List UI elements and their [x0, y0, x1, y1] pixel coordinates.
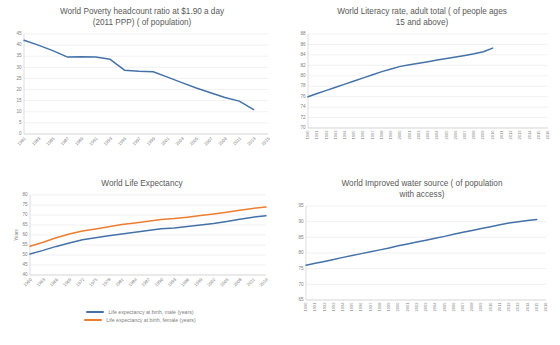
- x-axis-tick: 1999: [146, 136, 157, 147]
- x-axis-tick: 2009: [217, 136, 228, 147]
- y-axis-tick: 30: [16, 65, 22, 70]
- x-axis-tick: 2010: [490, 130, 495, 140]
- x-axis-tick: 1998: [379, 130, 384, 140]
- x-axis-tick: 2005: [444, 130, 449, 140]
- x-axis-tick: 1972: [75, 277, 86, 288]
- series-line: [24, 40, 254, 109]
- x-axis-tick: 2001: [407, 130, 412, 140]
- x-axis-tick: 2014: [525, 302, 530, 312]
- x-axis-tick: 1987: [141, 277, 152, 288]
- x-axis-tick: 1989: [74, 136, 85, 147]
- y-axis-tick: 80: [298, 250, 304, 255]
- x-axis-tick: 2011: [232, 136, 243, 147]
- chart-title-line2: 15 and above): [294, 17, 550, 28]
- chart-panel-water-source: World Improved water source ( of populat…: [280, 172, 560, 345]
- y-axis-tick: 25: [16, 76, 22, 81]
- y-axis-tick: 65: [298, 297, 304, 302]
- y-axis-tick: 10: [16, 109, 22, 114]
- y-axis-tick: 65: [22, 222, 28, 227]
- chart-svg-life-expectancy: 807570656055504540Years19601963196619691…: [0, 189, 280, 307]
- x-axis-tick: 1993: [333, 130, 338, 140]
- y-axis-label: Years: [14, 229, 19, 241]
- chart-svg-poverty: 4540353025201510501981198319851987198919…: [0, 28, 280, 168]
- x-axis-tick: 1996: [358, 302, 363, 312]
- x-axis-tick: 1991: [314, 130, 319, 140]
- x-axis-tick: 1963: [36, 277, 47, 288]
- x-axis-tick: 1981: [17, 136, 28, 147]
- x-axis-tick: 2003: [423, 302, 428, 312]
- x-axis-tick: 1992: [322, 302, 327, 312]
- chart-title-life-expectancy: World Life Expectancy: [0, 172, 280, 189]
- y-axis-tick: 45: [16, 31, 22, 36]
- x-axis-tick: 2013: [517, 130, 522, 140]
- y-axis-tick: 88: [300, 31, 306, 36]
- x-axis-tick: 2006: [453, 130, 458, 140]
- x-axis-tick: 2006: [451, 302, 456, 312]
- legend-item-female: Life expectancy at birth, female (years): [84, 317, 195, 323]
- x-axis-tick: 2008: [469, 302, 474, 312]
- legend-swatch-female: [84, 319, 102, 321]
- chart-title-water-source: World Improved water source ( of populat…: [280, 172, 560, 200]
- series-line: [308, 48, 493, 97]
- y-axis-tick: 95: [298, 203, 304, 208]
- x-axis-tick: 2015: [261, 136, 272, 147]
- y-axis-tick: 40: [22, 272, 28, 277]
- x-axis-tick: 1999: [193, 277, 204, 288]
- y-axis-tick: 70: [298, 282, 304, 287]
- x-axis-tick: 2002: [416, 130, 421, 140]
- x-axis-tick: 1994: [342, 130, 347, 140]
- x-axis-tick: 2007: [462, 130, 467, 140]
- x-axis-tick: 1998: [377, 302, 382, 312]
- x-axis-tick: 2010: [488, 302, 493, 312]
- y-axis-tick: 76: [300, 94, 306, 99]
- x-axis-tick: 1991: [312, 302, 317, 312]
- x-axis-tick: 2009: [480, 130, 485, 140]
- plot-area-literacy: 8886848280787674727019901991199219931994…: [280, 28, 560, 168]
- plot-area-poverty: 4540353025201510501981198319851987198919…: [0, 28, 280, 168]
- x-axis-tick: 2004: [432, 302, 437, 312]
- x-axis-tick: 2003: [425, 130, 430, 140]
- chart-panel-life-expectancy: World Life Expectancy 807570656055504540…: [0, 172, 280, 345]
- x-axis-tick: 1995: [117, 136, 128, 147]
- x-axis-tick: 2008: [232, 277, 243, 288]
- x-axis-tick: 2007: [203, 136, 214, 147]
- y-axis-tick: 20: [16, 87, 22, 92]
- y-axis-tick: 80: [22, 192, 28, 197]
- chart-title-line1: World Improved water source ( of populat…: [294, 178, 550, 189]
- y-axis-tick: 82: [300, 63, 306, 68]
- y-axis-tick: 60: [22, 232, 28, 237]
- x-axis-tick: 1997: [368, 302, 373, 312]
- x-axis-tick: 2012: [508, 130, 513, 140]
- chart-legend-life-expectancy: Life expectancy at birth, male (years) L…: [0, 309, 280, 323]
- charts-dashboard: World Poverty headcount ratio at $1.90 a…: [0, 0, 560, 345]
- x-axis-tick: 1994: [340, 302, 345, 312]
- chart-title-poverty: World Poverty headcount ratio at $1.90 a…: [0, 0, 280, 28]
- x-axis-tick: 2013: [246, 136, 257, 147]
- chart-svg-literacy: 8886848280787674727019901991199219931994…: [280, 28, 560, 168]
- chart-title-line1: World Life Expectancy: [14, 178, 270, 189]
- x-axis-tick: 2002: [206, 277, 217, 288]
- chart-title-line1: World Literacy rate, adult total ( of pe…: [294, 6, 550, 17]
- x-axis-tick: 2004: [434, 130, 439, 140]
- x-axis-tick: 2000: [395, 302, 400, 312]
- y-axis-tick: 45: [22, 262, 28, 267]
- x-axis-tick: 1984: [127, 277, 138, 288]
- x-axis-tick: 1993: [167, 277, 178, 288]
- x-axis-tick: 1966: [49, 277, 60, 288]
- y-axis-tick: 75: [22, 202, 28, 207]
- legend-swatch-male: [86, 311, 104, 313]
- series-line: [30, 207, 266, 246]
- y-axis-tick: 35: [16, 53, 22, 58]
- chart-title-literacy: World Literacy rate, adult total ( of pe…: [280, 0, 560, 28]
- x-axis-tick: 2011: [497, 302, 502, 312]
- x-axis-tick: 2001: [405, 302, 410, 312]
- x-axis-tick: 1960: [23, 277, 34, 288]
- chart-panel-poverty: World Poverty headcount ratio at $1.90 a…: [0, 0, 280, 172]
- legend-label-female: Life expectancy at birth, female (years): [106, 317, 195, 323]
- x-axis-tick: 1999: [388, 130, 393, 140]
- x-axis-tick: 2005: [189, 136, 200, 147]
- x-axis-tick: 1992: [324, 130, 329, 140]
- x-axis-tick: 2014: [527, 130, 532, 140]
- x-axis-tick: 2013: [515, 302, 520, 312]
- y-axis-tick: 75: [298, 266, 304, 271]
